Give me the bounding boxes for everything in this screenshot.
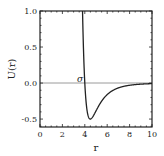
x-tick-label: 8 [127, 130, 132, 139]
y-tick-label: 0.0 [24, 79, 37, 88]
y-tick-label: 1.0 [24, 7, 37, 16]
y-tick-label: -0.5 [22, 115, 37, 124]
potential-curve [83, 11, 152, 119]
x-tick-label: 10 [147, 130, 157, 139]
sigma-annotation: σ [77, 74, 84, 84]
x-axis-label: r [94, 142, 99, 153]
x-tick-label: 6 [105, 130, 110, 139]
chart: 1.0 0.5 0.0 -0.5 0 2 4 6 8 10 r U(r) σ [0, 0, 164, 156]
y-axis-label: U(r) [6, 58, 17, 79]
x-tick-label: 4 [82, 130, 87, 139]
x-tick-label: 0 [37, 130, 42, 139]
y-tick-label: 0.5 [24, 43, 37, 52]
x-tick-label: 2 [60, 130, 65, 139]
